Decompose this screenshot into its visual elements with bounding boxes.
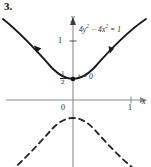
lower-branch-curve [3,118,146,167]
origin-label: 0 [61,103,65,112]
y-axis [70,17,77,167]
upper-branch-curve [3,19,146,79]
figure-container: 3. 4y2 − 4x2 = 1 y x [0,0,151,167]
vertex-point-marker [71,77,76,82]
fraction-denominator: 2 [60,79,66,87]
x-axis [6,97,147,104]
equation-label: 4y2 − 4x2 = 1 [79,23,121,34]
x-tick-label-one: 1 [128,103,132,112]
parameter-label-t-zero: t = 0 [78,72,93,81]
y-intercept-fraction-label: 1 2 [60,70,66,86]
y-axis-label: y [71,13,75,22]
hyperbola-plot [0,0,151,167]
x-axis-label: x [142,97,146,106]
y-tick-label-one: 1 [58,36,62,45]
